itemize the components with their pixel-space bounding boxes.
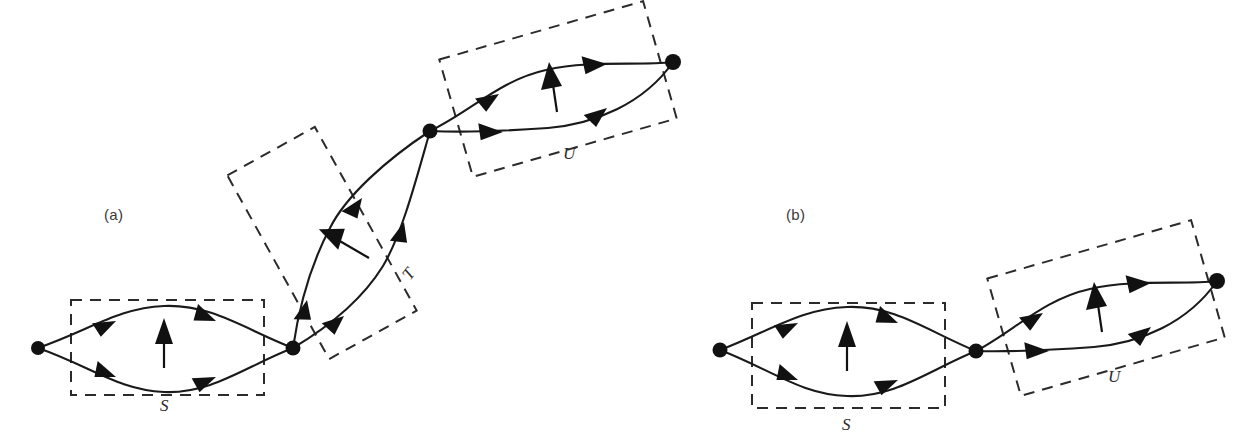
node-a-2 [286,341,301,356]
panel-b: (b) S U [713,206,1226,434]
block-label-T-a: T [398,263,420,283]
panel-label-a: (a) [104,206,123,223]
arrowhead-b-U-lower-1 [1024,342,1050,360]
block-label-U-b: U [1108,367,1122,386]
block-S-dashed-rect [71,300,264,395]
block-label-U-a: U [563,144,577,163]
node-b-2 [969,344,984,359]
node-a-3 [423,124,438,139]
block-S-box-b [752,303,945,408]
arrowhead-a-S-upper-1 [92,315,119,338]
block-label-S-b: S [842,415,851,434]
arrowhead-a-U-upper-2 [582,55,608,74]
block-S-box-a [71,300,264,395]
arrowhead-b-U-upper-2 [1126,274,1152,293]
arrowhead-a-U-upper-1 [475,87,503,113]
block-S-normal-arrow-b [838,321,856,371]
node-b-3 [1209,273,1225,289]
arrowhead-b-U-lower-2 [1128,321,1157,348]
block-U-box-a [439,1,676,177]
figure-root: (a) S T U [0,0,1253,439]
panel-label-b: (b) [786,206,805,223]
block-U-dashed-rect [987,220,1224,396]
node-a-1 [31,341,45,355]
block-T-normal-arrow-a [319,229,369,258]
arrowhead-a-S-upper-2 [192,304,220,328]
edge-a-T-left [293,131,430,348]
arrowhead-a-U-lower-1 [478,123,504,141]
series-parallel-digraph-figure: (a) S T U [0,0,1253,439]
block-label-S-a: S [160,396,169,415]
block-U-dashed-rect [439,1,676,177]
node-b-1 [713,343,728,358]
block-U-box-b [987,220,1224,396]
node-a-4 [665,54,681,70]
edge-a-S-lower [38,348,293,392]
panel-a: (a) S T U [31,1,681,415]
arrowhead-b-U-upper-1 [1019,306,1047,332]
block-S-normal-arrow-a [155,318,173,368]
arrowhead-a-T-left-2 [342,193,370,222]
block-S-dashed-rect [752,303,945,408]
arrowhead-a-U-lower-2 [584,102,613,129]
arrowhead-a-T-right-1 [322,310,350,337]
edge-a-T-right [293,131,430,348]
